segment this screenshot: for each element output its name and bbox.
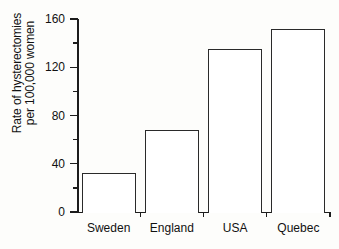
y-tick-major	[70, 211, 78, 212]
x-tick	[266, 212, 267, 217]
y-tick-major	[70, 115, 78, 116]
x-tick	[329, 212, 330, 217]
x-tick	[203, 212, 204, 217]
x-axis-label-england: England	[150, 222, 194, 234]
y-tick-label: 160	[25, 13, 65, 25]
bar-chart: Rate of hysterectomies per 100,000 women…	[0, 0, 339, 249]
bar-usa	[208, 49, 262, 213]
y-tick-major	[70, 67, 78, 68]
y-tick-minor	[73, 139, 79, 140]
x-tick	[140, 212, 141, 217]
y-tick-label: 80	[25, 110, 65, 122]
y-tick-label: 0	[25, 206, 65, 218]
x-axis-label-usa: USA	[223, 222, 248, 234]
x-axis-label-quebec: Quebec	[277, 222, 319, 234]
y-tick-major	[70, 163, 78, 164]
bar-england	[145, 130, 199, 213]
bar-sweden	[82, 173, 136, 213]
x-axis-label-sweden: Sweden	[87, 222, 130, 234]
y-tick-minor	[73, 187, 79, 188]
y-axis-title-line1: Rate of hysterectomies	[11, 13, 24, 134]
bar-quebec	[271, 29, 325, 213]
y-tick-minor	[73, 42, 79, 43]
y-tick-major	[70, 18, 78, 19]
y-tick-label: 120	[25, 61, 65, 73]
y-tick-label: 40	[25, 158, 65, 170]
y-tick-minor	[73, 91, 79, 92]
